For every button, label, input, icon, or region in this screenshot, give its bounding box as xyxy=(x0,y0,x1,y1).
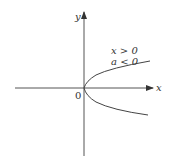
annotation-x-condition: x > 0 xyxy=(111,45,138,56)
annotation-a-condition: a < 0 xyxy=(111,56,139,67)
plot-canvas: y x 0 x > 0 a < 0 xyxy=(0,0,172,168)
y-axis-label: y xyxy=(74,11,81,22)
x-axis-label: x xyxy=(156,82,162,93)
origin-label: 0 xyxy=(75,90,81,101)
